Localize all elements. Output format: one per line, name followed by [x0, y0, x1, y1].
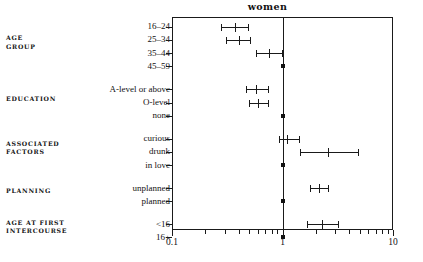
- category-tick: [166, 27, 172, 28]
- x-axis-minor-tick: [382, 230, 383, 234]
- x-axis-tick-label: 0.1: [166, 237, 178, 247]
- reference-point-none: [281, 114, 285, 118]
- x-axis-tick-label: 10: [388, 237, 398, 247]
- x-axis-minor-tick: [335, 230, 336, 234]
- x-axis-minor-tick: [368, 230, 369, 234]
- ci-cap-lower-35-44: [256, 50, 257, 57]
- x-axis-major-tick: [393, 230, 394, 236]
- page-title: women: [0, 1, 423, 12]
- ci-cap-upper-a-level-or-above: [268, 86, 269, 93]
- ci-cap-lower-drunk: [300, 149, 301, 156]
- ci-cap-lower-unplanned: [310, 185, 311, 192]
- category-label-unplanned: unplanned: [133, 184, 171, 193]
- x-axis-minor-tick: [277, 230, 278, 234]
- ci-cap-lower-25-34: [226, 37, 227, 44]
- estimate-marker-16-24: [235, 23, 236, 32]
- group-heading-age-group: AGE: [6, 34, 23, 41]
- x-axis-minor-tick: [360, 230, 361, 234]
- category-tick: [166, 116, 172, 117]
- estimate-marker-unplanned: [319, 184, 320, 193]
- x-axis-minor-tick: [249, 230, 250, 234]
- ci-cap-upper-drunk: [358, 149, 359, 156]
- ci-cap-lower-16: [307, 221, 308, 228]
- x-axis-minor-tick: [205, 230, 206, 234]
- estimate-marker-25-34: [239, 36, 240, 45]
- reference-point-45-59: [281, 64, 285, 68]
- category-tick: [166, 139, 172, 140]
- x-axis-minor-tick: [376, 230, 377, 234]
- category-tick: [166, 165, 172, 166]
- forest-plot-page: women AGEGROUPEDUCATIONASSOCIATEDFACTORS…: [0, 0, 423, 262]
- category-tick: [166, 152, 172, 153]
- category-tick: [166, 201, 172, 202]
- x-axis-minor-tick: [388, 230, 389, 234]
- x-axis-minor-tick: [258, 230, 259, 234]
- group-heading-planning: PLANNING: [6, 187, 51, 194]
- x-axis-minor-tick: [316, 230, 317, 234]
- x-axis-minor-tick: [349, 230, 350, 234]
- reference-point-planned: [281, 199, 285, 203]
- ci-cap-lower-a-level-or-above: [246, 86, 247, 93]
- ci-cap-upper-16: [338, 221, 339, 228]
- ci-cap-upper-16-24: [248, 24, 249, 31]
- confidence-interval-curious: [279, 139, 299, 140]
- x-axis-minor-tick: [225, 230, 226, 234]
- x-axis-minor-tick: [272, 230, 273, 234]
- ci-cap-lower-curious: [279, 136, 280, 143]
- x-axis-tick-label: 1: [280, 237, 285, 247]
- group-heading-age-at-first-intercourse: INTERCOURSE: [6, 227, 67, 234]
- estimate-marker-drunk: [328, 148, 329, 157]
- ci-cap-upper-o-level: [268, 100, 269, 107]
- group-heading-education: EDUCATION: [6, 95, 56, 102]
- category-tick: [166, 224, 172, 225]
- x-axis-major-tick: [283, 230, 284, 236]
- category-tick: [166, 103, 172, 104]
- category-tick: [166, 188, 172, 189]
- group-heading-age-at-first-intercourse: AGE AT FIRST: [6, 219, 65, 226]
- null-reference-line: [283, 17, 284, 230]
- category-tick: [166, 40, 172, 41]
- x-axis-minor-tick: [239, 230, 240, 234]
- ci-cap-upper-25-34: [250, 37, 251, 44]
- reference-point-in-love: [281, 163, 285, 167]
- x-axis-major-tick: [172, 230, 173, 236]
- ci-cap-upper-curious: [299, 136, 300, 143]
- estimate-marker-16: [322, 220, 323, 229]
- estimate-marker-35-44: [269, 49, 270, 58]
- estimate-marker-curious: [287, 135, 288, 144]
- ci-cap-lower-16-24: [221, 24, 222, 31]
- ci-cap-upper-unplanned: [328, 185, 329, 192]
- estimate-marker-a-level-or-above: [256, 85, 257, 94]
- category-tick: [166, 53, 172, 54]
- category-tick: [166, 89, 172, 90]
- group-heading-associated-factors: ASSOCIATED: [6, 140, 59, 147]
- group-heading-age-group: GROUP: [6, 43, 36, 50]
- category-label-a-level-or-above: A-level or above: [110, 85, 170, 94]
- x-axis-minor-tick: [265, 230, 266, 234]
- group-heading-associated-factors: FACTORS: [6, 148, 45, 155]
- category-tick: [166, 66, 172, 67]
- ci-cap-lower-o-level: [249, 100, 250, 107]
- ci-cap-upper-35-44: [282, 50, 283, 57]
- estimate-marker-o-level: [258, 99, 259, 108]
